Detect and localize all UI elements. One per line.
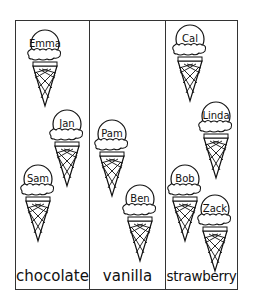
ice-cream-cone-icon: Ben [120,183,160,263]
ice-cream-cone-zack: Zack [195,193,235,273]
child-name: Jan [58,118,74,129]
ice-cream-cone-icon: Sam [18,163,58,243]
child-name: Bob [175,173,194,184]
child-name: Cal [182,33,198,44]
ice-cream-cone-icon: Cal [170,23,210,103]
ice-cream-cone-ben: Ben [120,183,160,263]
ice-cream-pictograph: chocolate vanilla strawberry Emma Jan [0,0,253,299]
ice-cream-cone-sam: Sam [18,163,58,243]
child-name: Linda [202,110,229,121]
ice-cream-cone-icon: Emma [25,28,65,108]
child-name: Emma [29,38,61,49]
child-name: Sam [27,173,49,184]
child-name: Zack [203,203,227,214]
ice-cream-cone-emma: Emma [25,28,65,108]
category-label-chocolate: chocolate [15,265,90,287]
ice-cream-cone-cal: Cal [170,23,210,103]
child-name: Ben [130,193,149,204]
category-label-vanilla: vanilla [90,265,165,287]
column-divider [89,20,90,290]
ice-cream-cone-icon: Zack [195,193,235,273]
child-name: Pam [101,128,122,139]
column-divider [165,20,166,290]
